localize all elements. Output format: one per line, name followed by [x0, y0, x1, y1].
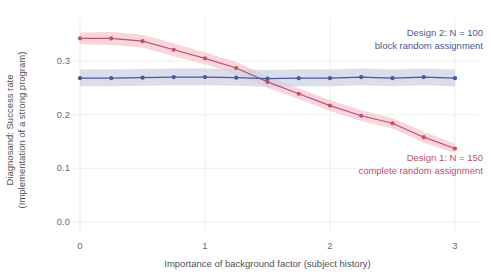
data-point [422, 135, 426, 139]
data-point [453, 146, 457, 150]
y-axis-title-line2: (Implementation of a strong program) [16, 30, 28, 230]
line-series-0 [80, 38, 455, 148]
data-point [109, 36, 113, 40]
annotation-design-2-line1: Design 2: N = 100 [375, 27, 483, 40]
chart-container: Diagnosand: Success rate (Implementation… [0, 0, 491, 280]
data-point [422, 75, 426, 79]
annotation-design-2-line2: block random assignment [375, 40, 483, 53]
x-tick-label-2: 2 [318, 240, 342, 251]
data-point [140, 39, 144, 43]
data-point [359, 75, 363, 79]
data-point [172, 75, 176, 79]
y-tick-label-1: 0.1 [42, 162, 70, 173]
x-tick-label-3: 3 [443, 240, 467, 251]
data-point [328, 76, 332, 80]
data-point [359, 114, 363, 118]
x-tick-label-1: 1 [193, 240, 217, 251]
y-tick-label-2: 0.2 [42, 109, 70, 120]
x-tick-label-0: 0 [68, 240, 92, 251]
y-axis-title-line1: Diagnosand: Success rate [4, 30, 16, 230]
data-point [328, 103, 332, 107]
data-point [203, 56, 207, 60]
data-point [234, 76, 238, 80]
data-point [265, 77, 269, 81]
y-axis-title: Diagnosand: Success rate (Implementation… [4, 30, 28, 230]
data-point [140, 76, 144, 80]
annotation-design-2: Design 2: N = 100 block random assignmen… [375, 27, 483, 52]
data-point [234, 66, 238, 70]
data-point [297, 76, 301, 80]
series-lines [80, 38, 455, 148]
series-points [78, 36, 457, 150]
data-point [297, 92, 301, 96]
data-point [109, 76, 113, 80]
data-point [78, 76, 82, 80]
annotation-design-1: Design 1: N = 150 complete random assign… [358, 152, 483, 177]
annotation-design-1-line1: Design 1: N = 150 [358, 152, 483, 165]
x-axis-title: Importance of background factor (subject… [80, 258, 455, 269]
y-tick-label-0: 0.0 [42, 216, 70, 227]
data-point [172, 48, 176, 52]
data-point [390, 76, 394, 80]
data-point [390, 121, 394, 125]
data-point [78, 36, 82, 40]
y-tick-label-3: 0.3 [42, 55, 70, 66]
annotation-design-1-line2: complete random assignment [358, 165, 483, 178]
data-point [203, 75, 207, 79]
data-point [453, 76, 457, 80]
